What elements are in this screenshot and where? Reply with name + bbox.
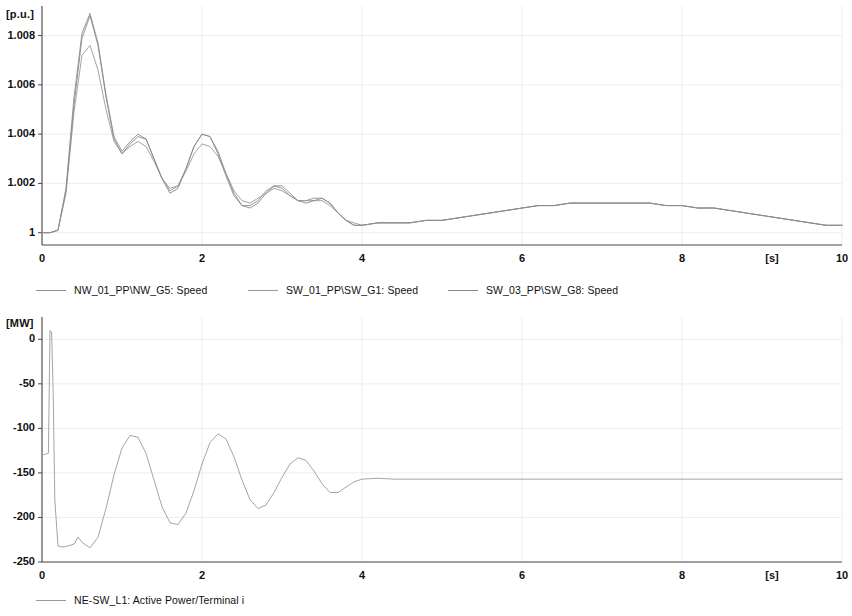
power-legend: NE-SW_L1: Active Power/Terminal i	[0, 591, 852, 611]
speed-plot-panel: [p.u.] 11.0021.0041.0061.0080246810[s] N…	[0, 0, 852, 305]
legend-item[interactable]: SW_01_PP\SW_G1: Speed	[248, 281, 418, 299]
legend-label: NE-SW_L1: Active Power/Terminal i	[74, 594, 244, 606]
y-tick-label: 1.004	[0, 127, 35, 139]
x-tick-label: 0	[22, 569, 62, 581]
x-tick-label: 10	[822, 569, 852, 581]
y-tick-label: 1.008	[0, 29, 35, 41]
tick-marks	[38, 36, 42, 233]
y-tick-label: -150	[0, 466, 35, 478]
legend-item[interactable]: NE-SW_L1: Active Power/Terminal i	[36, 591, 244, 609]
speed-chart-svg[interactable]	[0, 0, 852, 275]
y-tick-label: 1	[0, 226, 35, 238]
x-axis-unit: [s]	[752, 569, 792, 581]
legend-item[interactable]: NW_01_PP\NW_G5: Speed	[36, 281, 207, 299]
x-tick-label: 6	[502, 252, 542, 264]
speed-legend: NW_01_PP\NW_G5: SpeedSW_01_PP\SW_G1: Spe…	[0, 281, 852, 301]
legend-line-swatch	[448, 290, 478, 291]
x-tick-label: 2	[182, 569, 222, 581]
y-tick-label: 1.006	[0, 78, 35, 90]
power-chart-svg[interactable]	[0, 305, 852, 585]
y-tick-label: -200	[0, 510, 35, 522]
legend-label: SW_01_PP\SW_G1: Speed	[286, 284, 418, 296]
grid-lines	[42, 317, 842, 562]
x-tick-label: 2	[182, 252, 222, 264]
series-line-0	[42, 13, 842, 232]
x-tick-label: 4	[342, 569, 382, 581]
x-tick-label: 8	[662, 252, 702, 264]
speed-y-axis-unit: [p.u.]	[6, 8, 34, 20]
y-tick-label: -50	[0, 377, 35, 389]
power-y-axis-unit: [MW]	[6, 317, 34, 329]
legend-label: SW_03_PP\SW_G8: Speed	[486, 284, 618, 296]
power-plot-panel: [MW] 0-50-100-150-200-2500246810[s] NE-S…	[0, 305, 852, 616]
y-tick-label: 0	[0, 332, 35, 344]
x-tick-label: 10	[822, 252, 852, 264]
tick-marks	[38, 339, 42, 562]
x-tick-label: 8	[662, 569, 702, 581]
axis-lines	[42, 317, 842, 562]
legend-item[interactable]: SW_03_PP\SW_G8: Speed	[448, 281, 618, 299]
series-line-1	[42, 45, 842, 232]
x-tick-label: 4	[342, 252, 382, 264]
legend-line-swatch	[248, 290, 278, 291]
legend-label: NW_01_PP\NW_G5: Speed	[74, 284, 207, 296]
y-tick-label: -250	[0, 555, 35, 567]
legend-line-swatch	[36, 290, 66, 291]
y-tick-label: -100	[0, 421, 35, 433]
series-line-0	[42, 330, 842, 547]
series-line-2	[42, 16, 842, 233]
x-tick-label: 6	[502, 569, 542, 581]
x-tick-label: 0	[22, 252, 62, 264]
legend-line-swatch	[36, 600, 66, 601]
simulation-plot-page: [p.u.] 11.0021.0041.0061.0080246810[s] N…	[0, 0, 852, 616]
x-axis-unit: [s]	[752, 252, 792, 264]
y-tick-label: 1.002	[0, 176, 35, 188]
